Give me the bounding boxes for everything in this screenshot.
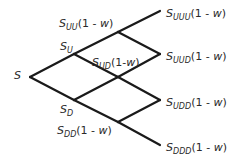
edge-suu-suuu bbox=[118, 11, 160, 32]
label-sddd-base: S bbox=[166, 141, 173, 154]
edge-sdd-sddd bbox=[118, 122, 160, 145]
label-suu-post: ) bbox=[109, 17, 113, 30]
edge-sdd-sudd bbox=[118, 100, 160, 122]
label-sud-post: ) bbox=[135, 56, 139, 69]
label-sudd-base: S bbox=[166, 96, 173, 109]
label-suud-w: w bbox=[213, 50, 222, 63]
label-sdd-pre: (1 - bbox=[76, 124, 98, 137]
label-sddd-post: ) bbox=[223, 141, 227, 154]
label-sddd-sub: DDD bbox=[173, 147, 191, 156]
label-sudd-sub: UDD bbox=[173, 102, 191, 111]
label-sud-pre: (1- bbox=[111, 56, 126, 69]
label-suu-sub: UU bbox=[66, 23, 78, 32]
label-sddd: SDDD(1 - w) bbox=[166, 142, 227, 153]
label-sudd-pre: (1 - bbox=[191, 96, 213, 109]
edge-su-suu bbox=[74, 32, 118, 54]
label-sd-base: S bbox=[60, 103, 67, 116]
label-suuu-post: ) bbox=[222, 7, 226, 20]
label-suu-pre: (1 - bbox=[78, 17, 100, 30]
label-s-base: S bbox=[14, 69, 21, 82]
label-sdd-post: ) bbox=[108, 124, 112, 137]
label-suuu: SUUU(1 - w) bbox=[166, 8, 226, 19]
label-sdd: SDD(1 - w) bbox=[57, 125, 112, 136]
label-su: SU bbox=[60, 41, 73, 52]
label-sddd-w: w bbox=[214, 141, 223, 154]
label-suuu-sub: UUU bbox=[173, 13, 191, 22]
label-suud-sub: UUD bbox=[173, 56, 191, 65]
label-sudd-post: ) bbox=[222, 96, 226, 109]
binomial-tree-diagram: S SU SD SUU(1 - w) SUD(1-w) SDD(1 - w) S… bbox=[0, 0, 244, 166]
edge-s-su bbox=[30, 54, 74, 77]
label-su-sub: U bbox=[67, 46, 73, 55]
label-suud-base: S bbox=[166, 50, 173, 63]
label-sd: SD bbox=[60, 104, 73, 115]
label-suu-w: w bbox=[100, 17, 109, 30]
label-sdd-base: S bbox=[57, 124, 64, 137]
label-sud-w: w bbox=[126, 56, 135, 69]
label-sudd: SUDD(1 - w) bbox=[166, 97, 227, 108]
edge-sud-sudd bbox=[118, 77, 160, 100]
label-suud-pre: (1 - bbox=[191, 50, 213, 63]
label-sud: SUD(1-w) bbox=[92, 57, 140, 68]
label-sd-sub: D bbox=[67, 109, 73, 118]
edge-sd-sud bbox=[74, 77, 118, 100]
label-suud: SUUD(1 - w) bbox=[166, 51, 226, 62]
label-suu: SUU(1 - w) bbox=[59, 18, 113, 29]
label-sud-base: S bbox=[92, 56, 99, 69]
label-suuu-pre: (1 - bbox=[191, 7, 213, 20]
label-suud-post: ) bbox=[222, 50, 226, 63]
label-sdd-sub: DD bbox=[64, 130, 76, 139]
label-sddd-pre: (1 - bbox=[191, 141, 213, 154]
label-s: S bbox=[14, 70, 21, 81]
label-suu-base: S bbox=[59, 17, 66, 30]
label-sdd-w: w bbox=[99, 124, 108, 137]
label-sud-sub: UD bbox=[99, 62, 111, 71]
edge-sd-sdd bbox=[74, 100, 118, 122]
edge-s-sd bbox=[30, 77, 74, 100]
label-suuu-base: S bbox=[166, 7, 173, 20]
label-su-base: S bbox=[60, 40, 67, 53]
label-suuu-w: w bbox=[213, 7, 222, 20]
edge-suu-suud bbox=[118, 32, 160, 54]
